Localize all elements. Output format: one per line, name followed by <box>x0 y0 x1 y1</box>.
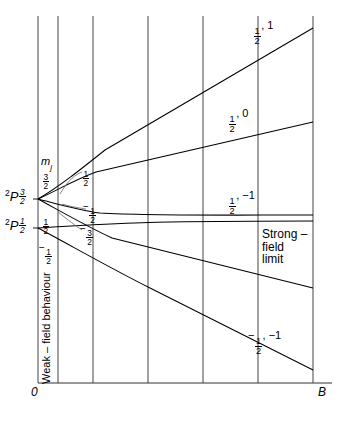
mj-value-3-2-frac: 32 <box>43 173 50 190</box>
right-label-half-zero-frac: 12 <box>229 115 236 134</box>
right-label-neghalf-neg-one: −12, −1 <box>248 330 281 356</box>
right-label-half-zero-second: , 0 <box>236 107 248 119</box>
term-symbol-p32: 2P32 <box>5 188 26 205</box>
mj-value-3-2: 32 <box>42 168 50 191</box>
zeeman-paschen-back-figure: 2P32 2P12 mj 32 12 −12 12 −12 −32 12, 1 … <box>0 0 343 422</box>
term-p32-multiplicity: 2 <box>5 189 10 198</box>
line-mj-1-2 <box>38 122 313 199</box>
mj-header-j: j <box>50 163 52 172</box>
right-label-half-neg-one: 12, −1 <box>228 190 255 216</box>
inner-label-neg-three-half: −32 <box>80 224 94 247</box>
inner-label-pos-half-frac: 12 <box>83 170 90 187</box>
line-mj-neg-1-2 <box>38 199 313 215</box>
mj-value-neg-1-2-frac: 12 <box>45 248 52 265</box>
term-symbol-p12: 2P12 <box>5 217 26 234</box>
x-axis-label: B <box>318 386 326 399</box>
term-p12-j: 12 <box>19 217 26 234</box>
weak-field-behaviour-annotation: Weak – field behaviour <box>40 272 52 384</box>
inner-label-pos-half: 12 <box>82 165 90 188</box>
strong-field-limit-annotation: Strong – field limit <box>262 228 307 266</box>
mj-value-neg-1-2: −12 <box>39 243 53 266</box>
right-label-half-one: 12, 1 <box>253 20 273 46</box>
level-ticks <box>33 199 38 228</box>
right-label-half-neg-one-frac: 12 <box>229 197 236 216</box>
right-label-half-one-frac: 12 <box>254 27 261 46</box>
mj-value-neg-1-2-sign: − <box>39 242 45 253</box>
right-label-half-zero: 12, 0 <box>228 108 248 134</box>
inner-label-neg-half: −12 <box>83 202 97 225</box>
right-label-half-one-second: , 1 <box>261 19 273 31</box>
right-label-neghalf-neg-one-frac: 12 <box>255 337 262 356</box>
term-p12-multiplicity: 2 <box>5 218 10 227</box>
mj-value-1-2-frac: 12 <box>43 218 50 235</box>
right-label-neghalf-neg-one-sign: − <box>248 329 254 341</box>
right-label-half-neg-one-second: , −1 <box>236 189 255 201</box>
term-p32-letter: P <box>10 190 19 204</box>
term-p32-j: 32 <box>19 188 26 205</box>
inner-label-neg-three-half-frac: 32 <box>86 229 93 246</box>
mj-header-m: m <box>41 155 50 167</box>
right-label-neghalf-neg-one-second: , −1 <box>263 329 282 341</box>
term-p12-letter: P <box>10 219 19 233</box>
x-axis-origin-label: 0 <box>31 386 38 399</box>
mj-value-1-2: 12 <box>42 213 50 236</box>
inner-label-neg-three-half-sign: − <box>80 223 86 234</box>
inner-label-neg-half-sign: − <box>83 201 89 212</box>
inner-label-neg-half-frac: 12 <box>89 207 96 224</box>
grid-group <box>38 16 313 383</box>
